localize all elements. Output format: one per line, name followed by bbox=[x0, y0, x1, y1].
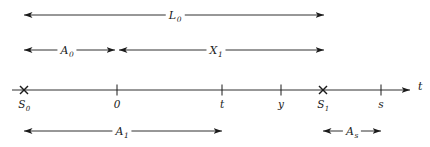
interval-label-text-As: As bbox=[343, 125, 361, 138]
interval-label-text-L0: L0 bbox=[166, 9, 185, 22]
axis-name-label: t bbox=[418, 80, 422, 93]
interval-label-As: As bbox=[343, 125, 361, 138]
tick-label-subscript-S1: 1 bbox=[325, 105, 329, 113]
tick-label-t: t bbox=[220, 98, 224, 110]
tick-label-y: y bbox=[278, 98, 284, 110]
tick-label-S0: S0 bbox=[18, 98, 30, 110]
interval-label-text-A0: A0 bbox=[57, 44, 76, 57]
interval-label-X1: X1 bbox=[206, 44, 225, 57]
interval-arrows-group bbox=[24, 15, 381, 131]
timeline-diagram: L0A0X1A1As S00tyS1s t bbox=[0, 0, 430, 147]
interval-label-subscript-A0: 0 bbox=[69, 49, 74, 58]
tick-label-zero: 0 bbox=[114, 98, 121, 110]
interval-label-A1: A1 bbox=[112, 125, 131, 138]
tick-label-s: s bbox=[378, 98, 383, 110]
interval-label-subscript-L0: 0 bbox=[177, 14, 182, 23]
interval-label-subscript-As: s bbox=[354, 130, 358, 139]
tick-label-subscript-S0: 0 bbox=[26, 105, 30, 113]
interval-label-subscript-A1: 1 bbox=[124, 130, 129, 139]
interval-label-text-A1: A1 bbox=[112, 125, 131, 138]
interval-label-subscript-X1: 1 bbox=[218, 49, 223, 58]
tick-label-S1: S1 bbox=[317, 98, 329, 110]
interval-label-A0: A0 bbox=[57, 44, 76, 57]
diagram-canvas bbox=[0, 0, 430, 147]
interval-label-L0: L0 bbox=[166, 9, 185, 22]
interval-label-text-X1: X1 bbox=[206, 44, 225, 57]
